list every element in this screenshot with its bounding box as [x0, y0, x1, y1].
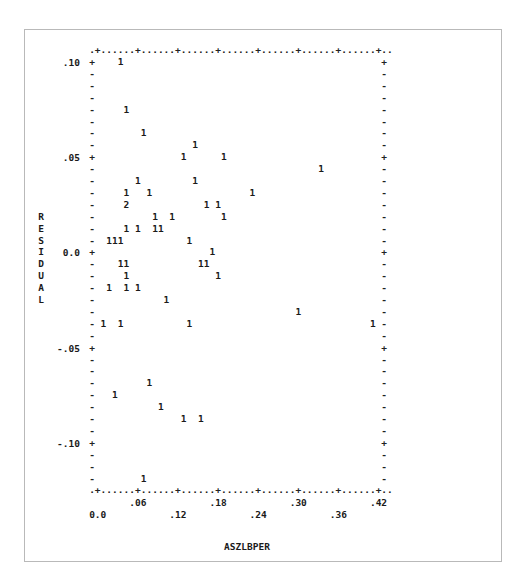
left-axis-mark: - — [89, 355, 95, 365]
left-axis-mark: - — [89, 283, 95, 293]
data-point: 1 — [215, 200, 221, 210]
left-axis-mark: - — [89, 224, 95, 234]
y-axis-title-letter: I — [38, 247, 44, 257]
data-point: 1 — [124, 188, 130, 198]
left-axis-mark: - — [89, 105, 95, 115]
data-point: 1 — [118, 236, 124, 246]
data-point: 1 — [250, 188, 256, 198]
bottom-border-mark: . — [387, 485, 393, 495]
y-tick-label: .05 — [63, 152, 80, 163]
right-axis-mark: - — [381, 426, 387, 436]
right-axis-mark: - — [381, 366, 387, 376]
data-point: 1 — [221, 212, 227, 222]
right-axis-mark: - — [381, 140, 387, 150]
right-axis-mark: - — [381, 259, 387, 269]
x-tick-label: .06 — [129, 497, 146, 508]
right-axis-mark: - — [381, 402, 387, 412]
data-point: 1 — [124, 271, 130, 281]
data-point: 1 — [158, 224, 164, 234]
left-axis-mark: - — [89, 81, 95, 91]
y-tick-label: 0.0 — [63, 247, 80, 258]
right-axis-mark: - — [381, 390, 387, 400]
data-point: 1 — [118, 57, 124, 67]
right-axis-mark: - — [381, 93, 387, 103]
data-point: 1 — [152, 212, 158, 222]
x-tick-label: .12 — [169, 509, 186, 520]
left-axis-mark: - — [89, 128, 95, 138]
right-axis-mark: - — [381, 224, 387, 234]
data-point: 1 — [370, 319, 376, 329]
right-axis-mark: - — [381, 331, 387, 341]
data-point: 1 — [135, 176, 141, 186]
data-point: 1 — [209, 247, 215, 257]
y-axis-title-letter: R — [38, 212, 44, 222]
data-point: 1 — [221, 152, 227, 162]
left-axis-mark: + — [89, 57, 95, 67]
left-axis-mark: - — [89, 117, 95, 127]
data-point: 1 — [106, 283, 112, 293]
left-axis-mark: + — [89, 152, 95, 162]
residual-scatter-plot: .+......+......+......+......+......+...… — [0, 0, 529, 585]
right-axis-mark: + — [381, 438, 387, 448]
right-axis-mark: - — [381, 414, 387, 424]
data-point: 1 — [187, 236, 193, 246]
data-point: 1 — [141, 128, 147, 138]
y-axis-title-letter: U — [38, 271, 44, 281]
data-point: 1 — [164, 295, 170, 305]
right-axis-mark: - — [381, 319, 387, 329]
right-axis-mark: - — [381, 117, 387, 127]
data-point: 1 — [181, 152, 187, 162]
data-point: 1 — [146, 188, 152, 198]
data-point: 1 — [101, 319, 107, 329]
y-tick-label: .10 — [63, 57, 80, 68]
left-axis-mark: - — [89, 462, 95, 472]
right-axis-mark: - — [381, 271, 387, 281]
left-axis-mark: - — [89, 307, 95, 317]
right-axis-mark: - — [381, 164, 387, 174]
x-tick-label: .36 — [330, 509, 347, 520]
data-point: 1 — [112, 390, 118, 400]
y-tick-label: -.10 — [57, 437, 80, 448]
right-axis-mark: + — [381, 247, 387, 257]
y-axis-title-letter: D — [38, 259, 44, 269]
left-axis-mark: + — [89, 343, 95, 353]
left-axis-mark: - — [89, 236, 95, 246]
x-tick-label: .18 — [209, 497, 226, 508]
left-axis-mark: + — [89, 438, 95, 448]
right-axis-mark: - — [381, 378, 387, 388]
left-axis-mark: - — [89, 176, 95, 186]
left-axis-mark: - — [89, 212, 95, 222]
data-point: 1 — [124, 259, 130, 269]
left-axis-mark: - — [89, 69, 95, 79]
right-axis-mark: - — [381, 474, 387, 484]
left-axis-mark: - — [89, 402, 95, 412]
data-point: 1 — [124, 224, 130, 234]
right-axis-mark: + — [381, 57, 387, 67]
data-point: 1 — [181, 414, 187, 424]
x-tick-label: .24 — [250, 509, 267, 520]
y-tick-label: -.05 — [57, 342, 80, 353]
right-axis-mark: + — [381, 152, 387, 162]
y-axis-title-letter: L — [38, 295, 44, 305]
right-axis-mark: - — [381, 295, 387, 305]
x-tick-label: .30 — [290, 497, 307, 508]
data-point: 1 — [204, 259, 210, 269]
right-axis-mark: - — [381, 69, 387, 79]
data-point: 1 — [135, 224, 141, 234]
right-axis-mark: - — [381, 355, 387, 365]
data-point: 1 — [192, 140, 198, 150]
data-point: 1 — [204, 200, 210, 210]
left-axis-mark: - — [89, 426, 95, 436]
right-axis-mark: - — [381, 105, 387, 115]
x-tick-label: .42 — [370, 497, 387, 508]
left-axis-mark: - — [89, 188, 95, 198]
left-axis-mark: - — [89, 331, 95, 341]
data-point: 1 — [318, 164, 324, 174]
data-point: 1 — [295, 307, 301, 317]
left-axis-mark: - — [89, 164, 95, 174]
right-axis-mark: - — [381, 212, 387, 222]
left-axis-mark: - — [89, 271, 95, 281]
data-point: 1 — [192, 176, 198, 186]
data-point: 1 — [169, 212, 175, 222]
right-axis-mark: - — [381, 307, 387, 317]
